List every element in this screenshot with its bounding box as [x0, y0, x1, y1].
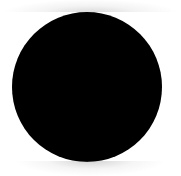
image-canvas [0, 0, 181, 176]
top-compression-haze [0, 0, 181, 12]
bottom-compression-haze [0, 161, 181, 176]
black-circle [12, 12, 162, 162]
